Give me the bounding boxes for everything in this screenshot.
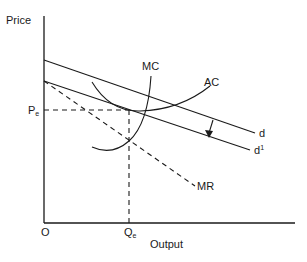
mc-label: MC bbox=[142, 60, 159, 72]
demand-d-label: d bbox=[259, 127, 265, 139]
quantity-equilibrium-label: Qe bbox=[124, 226, 137, 239]
monopolistic-competition-diagram: Price Output O Pe Qe MC AC MR d d1 bbox=[0, 0, 307, 262]
price-equilibrium-label: Pe bbox=[28, 104, 39, 117]
demand-curve-d-prime bbox=[44, 81, 250, 150]
demand-d-prime-label: d1 bbox=[254, 144, 264, 156]
y-axis-label: Price bbox=[6, 14, 31, 26]
marginal-revenue-curve bbox=[44, 81, 195, 186]
ac-label: AC bbox=[204, 76, 219, 88]
x-axis-label: Output bbox=[150, 238, 183, 250]
mr-label: MR bbox=[197, 180, 214, 192]
origin-label: O bbox=[41, 226, 50, 238]
